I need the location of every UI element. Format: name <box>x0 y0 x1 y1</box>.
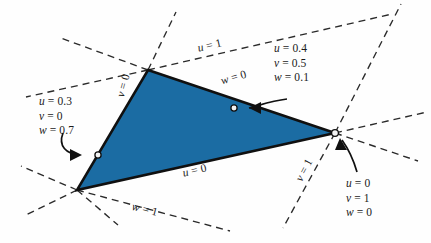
interior-point-v: v = 0.5 <box>274 56 309 71</box>
barycentric-coordinates-figure: u = 1 w = 0 v = 0 u = 0 w = 1 v = 1 u = … <box>0 0 431 243</box>
interior-point-u: u = 0.4 <box>274 41 309 56</box>
vertex-point-u: u = 0 <box>346 176 372 191</box>
edge-point-w: w = 0.7 <box>39 123 74 138</box>
dashed-line-top-upleft <box>58 37 148 70</box>
interior-point-marker <box>231 105 237 111</box>
dashed-line-top-up <box>148 12 176 70</box>
interior-point-w: w = 0.1 <box>274 70 309 85</box>
dashed-line-right-upright <box>335 112 427 133</box>
edge-point-label-block: u = 0.3 v = 0 w = 0.7 <box>39 94 74 138</box>
dashed-line-v-equals-1 <box>283 133 335 228</box>
edge-point-u: u = 0.3 <box>39 94 74 109</box>
arrow-to-vertex-point <box>342 140 357 172</box>
vertex-point-w: w = 0 <box>346 205 372 220</box>
edge-point-v: v = 0 <box>39 109 74 124</box>
interior-point-label-block: u = 0.4 v = 0.5 w = 0.1 <box>274 41 309 85</box>
vertex-point-v: v = 1 <box>346 191 372 206</box>
edge-point-marker <box>95 152 101 158</box>
dashed-line-bl-upleft <box>21 166 77 190</box>
dashed-line-bl-downleft <box>26 190 77 215</box>
dashed-line-right-up <box>335 4 401 133</box>
arrowhead-edge <box>70 149 82 161</box>
vertex-point-marker <box>332 130 339 137</box>
dashed-line-u-equals-1 <box>148 14 392 70</box>
dashed-line-bl-downright <box>77 190 118 225</box>
vertex-point-label-block: u = 0 v = 1 w = 0 <box>346 176 372 220</box>
